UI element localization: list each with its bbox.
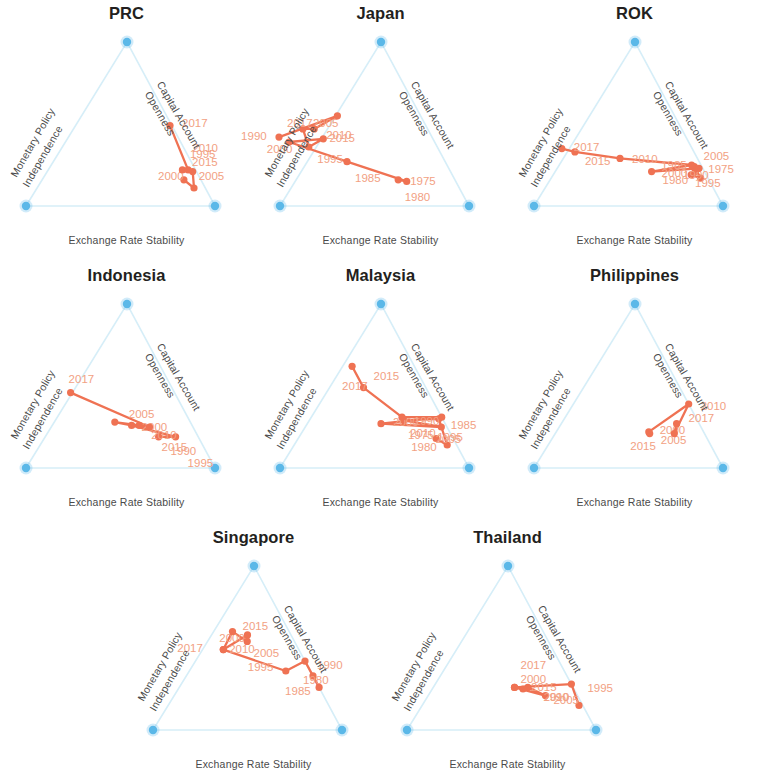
panel-title: Malaysia — [254, 266, 507, 285]
year-label: 1995 — [587, 682, 613, 694]
year-label: 2017 — [521, 659, 547, 671]
vertex-right — [465, 202, 473, 210]
data-point[interactable] — [395, 176, 402, 183]
year-label: 1975 — [410, 175, 436, 187]
vertex-apex — [377, 300, 385, 308]
panel-malaysia: Malaysia19751980198519901995200020052010… — [254, 262, 507, 520]
vertex-right — [719, 202, 727, 210]
year-label: 2015 — [531, 681, 557, 693]
year-label: 2000 — [393, 416, 419, 428]
data-point[interactable] — [568, 681, 575, 688]
data-point[interactable] — [67, 389, 74, 396]
data-point[interactable] — [229, 628, 236, 635]
panel-title: Philippines — [508, 266, 761, 285]
data-point[interactable] — [398, 414, 405, 421]
year-label: 2015 — [585, 155, 611, 167]
data-point[interactable] — [648, 168, 655, 175]
year-label: 2010 — [632, 153, 658, 165]
year-label: 1980 — [405, 191, 431, 203]
data-point[interactable] — [688, 161, 695, 168]
data-point[interactable] — [673, 420, 680, 427]
data-point[interactable] — [282, 667, 289, 674]
data-point[interactable] — [111, 419, 118, 426]
panel-grid: PRC199520002005201020152017Monetary Poli… — [0, 0, 761, 780]
data-point[interactable] — [671, 430, 678, 437]
data-point[interactable] — [190, 184, 197, 191]
vertex-right — [338, 726, 346, 734]
year-label: 2010 — [229, 643, 255, 655]
year-label: 1975 — [708, 163, 734, 175]
data-point[interactable] — [511, 684, 518, 691]
data-point[interactable] — [616, 155, 623, 162]
vertex-left — [530, 202, 538, 210]
data-point[interactable] — [343, 158, 350, 165]
data-point[interactable] — [519, 685, 526, 692]
ternary-plot: 199520002005201020152017Monetary PolicyI… — [0, 28, 253, 258]
year-label: 2017 — [69, 373, 95, 385]
year-label: 2015 — [192, 156, 218, 168]
data-point[interactable] — [334, 112, 341, 119]
data-point[interactable] — [438, 423, 445, 430]
year-label: 2005 — [129, 408, 155, 420]
data-point[interactable] — [695, 165, 702, 172]
year-label: 2005 — [199, 170, 225, 182]
panel-title: ROK — [508, 4, 761, 23]
axis-label-exchange-rate-stability: Exchange Rate Stability — [381, 758, 634, 770]
vertex-apex — [123, 38, 131, 46]
vertex-apex — [123, 300, 131, 308]
data-point[interactable] — [185, 166, 192, 173]
ternary-plot: 198019851990199520002005201020152017Mone… — [127, 552, 380, 780]
year-label: 2010 — [151, 429, 177, 441]
data-point[interactable] — [316, 684, 323, 691]
vertex-left — [276, 202, 284, 210]
data-point[interactable] — [220, 646, 227, 653]
year-label: 1995 — [317, 153, 343, 165]
year-label: 1995 — [248, 661, 274, 673]
year-label: 2015 — [329, 132, 355, 144]
vertex-apex — [377, 38, 385, 46]
data-point[interactable] — [645, 428, 652, 435]
vertex-left — [22, 202, 30, 210]
panel-title: Thailand — [381, 528, 634, 547]
data-point[interactable] — [146, 423, 153, 430]
year-label: 2005 — [254, 647, 280, 659]
vertex-right — [211, 202, 219, 210]
panel-title: PRC — [0, 4, 253, 23]
data-point[interactable] — [128, 422, 135, 429]
data-point[interactable] — [438, 414, 445, 421]
year-label: 1985 — [285, 685, 311, 697]
year-label: 2015 — [162, 441, 188, 453]
ternary-plot: 1990199520002005201020152017Monetary Pol… — [0, 290, 253, 520]
data-point[interactable] — [403, 178, 410, 185]
year-label: 2005 — [436, 433, 462, 445]
data-point[interactable] — [685, 400, 692, 407]
panel-title: Japan — [254, 4, 507, 23]
year-label: 2000 — [662, 167, 688, 179]
vertex-left — [22, 464, 30, 472]
year-label: 1985 — [355, 172, 381, 184]
axis-label-exchange-rate-stability: Exchange Rate Stability — [508, 496, 761, 508]
ternary-plot: 1975198019851990199520002005201020152017… — [254, 290, 507, 520]
panel-rok: ROK1975198019851990199520002005201020152… — [508, 0, 761, 258]
vertex-left — [276, 464, 284, 472]
year-label: 2015 — [243, 620, 269, 632]
data-point[interactable] — [136, 422, 143, 429]
year-label: 2005 — [704, 150, 730, 162]
year-label: 2015 — [374, 370, 400, 382]
vertex-right — [592, 726, 600, 734]
year-label: 1990 — [241, 130, 267, 142]
data-point[interactable] — [301, 658, 308, 665]
vertex-right — [719, 464, 727, 472]
year-label: 1995 — [695, 177, 721, 189]
vertex-apex — [504, 562, 512, 570]
year-label: 2017 — [689, 412, 715, 424]
year-label: 1995 — [188, 457, 214, 469]
data-point[interactable] — [377, 420, 384, 427]
ternary-plot: 1975198019851990199520002005201020152017… — [254, 28, 507, 258]
data-point[interactable] — [244, 631, 251, 638]
ternary-plot: 1975198019851990199520002005201020152017… — [508, 28, 761, 258]
vertex-left — [403, 726, 411, 734]
year-label: 2017 — [342, 380, 368, 392]
vertex-apex — [631, 300, 639, 308]
data-point[interactable] — [349, 363, 356, 370]
